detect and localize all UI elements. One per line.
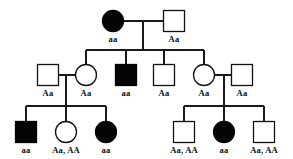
individual-III-3-affected-female[interactable] (96, 122, 117, 143)
individual-III-1-affected-male[interactable] (16, 122, 37, 143)
individual-III-2-unaffected-female[interactable] (56, 122, 77, 143)
genotype-label-I-2: Aa (169, 34, 180, 44)
individual-II-5-unaffected-female[interactable] (194, 65, 215, 86)
genotype-label-II-1: Aa (43, 88, 54, 98)
genotype-label-III-6: Aa, AA (250, 145, 278, 155)
genotype-label-I-1: aa (109, 34, 118, 44)
genotype-label-II-5: Aa (199, 88, 210, 98)
genotype-label-III-3: aa (102, 145, 111, 155)
genotype-label-II-2: Aa (81, 88, 92, 98)
individual-II-3-affected-male[interactable] (116, 65, 137, 86)
genotype-label-II-6: Aa (237, 88, 248, 98)
genotype-label-II-4: Aa (159, 88, 170, 98)
genotype-label-III-2: Aa, AA (52, 145, 80, 155)
individual-II-4-unaffected-male[interactable] (154, 65, 175, 86)
individual-I-2-unaffected-male[interactable] (164, 11, 185, 32)
individual-II-6-unaffected-male[interactable] (232, 65, 253, 86)
genotype-label-III-1: aa (22, 145, 31, 155)
individual-II-1-unaffected-male[interactable] (38, 65, 59, 86)
individual-III-6-unaffected-male[interactable] (254, 122, 275, 143)
genotype-label-III-5: aa (220, 145, 229, 155)
pedigree-canvas (0, 0, 293, 159)
pedigree-diagram: aa Aa Aa Aa aa Aa Aa Aa aa Aa, AA aa Aa,… (0, 0, 293, 159)
genotype-label-III-4: Aa, AA (170, 145, 198, 155)
individual-III-5-affected-female[interactable] (214, 122, 235, 143)
individual-II-2-unaffected-female[interactable] (76, 65, 97, 86)
individual-I-1-affected-female[interactable] (103, 11, 124, 32)
genotype-label-II-3: aa (122, 88, 131, 98)
individual-III-4-unaffected-male[interactable] (174, 122, 195, 143)
